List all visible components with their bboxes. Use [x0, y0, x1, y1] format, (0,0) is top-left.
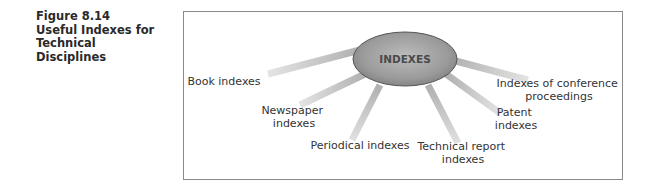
spoke-periodical [352, 85, 380, 140]
node-label: indexes [442, 153, 485, 166]
node-label: Patent [497, 106, 533, 119]
node-label: proceedings [525, 90, 593, 103]
node-newspaper: Newspaper indexes [261, 104, 326, 130]
node-label: Periodical indexes [311, 139, 410, 152]
node-label: Newspaper [261, 104, 323, 117]
node-label: Technical report [416, 140, 505, 153]
node-periodical: Periodical indexes [311, 139, 410, 152]
hub-spoke-diagram: INDEXES Book indexes Newspaper indexes P… [0, 0, 653, 188]
node-technical-report: Technical report indexes [416, 140, 508, 166]
spoke-book [268, 50, 360, 74]
hub-node: INDEXES [353, 32, 457, 86]
node-label: indexes [273, 117, 316, 130]
node-label: Indexes of conference [497, 77, 618, 90]
node-label: indexes [495, 119, 538, 132]
node-patent: Patent indexes [495, 106, 538, 132]
spoke-technical-report [428, 85, 458, 143]
node-label: Book indexes [187, 75, 260, 88]
node-book: Book indexes [187, 75, 260, 88]
hub-label: INDEXES [379, 53, 430, 65]
spoke-newspaper [300, 74, 365, 105]
node-conference: Indexes of conference proceedings [497, 77, 622, 103]
spoke-patent [446, 74, 500, 113]
